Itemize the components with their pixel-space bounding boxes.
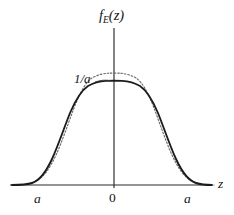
x-tick-label-positive-a: a bbox=[184, 192, 191, 206]
peak-value-label: 1/a bbox=[74, 72, 91, 85]
probability-density-figure: fE(z) 1/a a 0 a z bbox=[0, 0, 234, 215]
x-tick-label-origin: 0 bbox=[109, 191, 116, 205]
plot-canvas bbox=[0, 0, 234, 215]
x-axis-label: z bbox=[218, 177, 223, 191]
x-tick-label-negative-a: a bbox=[34, 192, 41, 206]
solid-density-curve bbox=[12, 81, 212, 185]
y-axis-label-argument: (z) bbox=[109, 7, 124, 23]
y-axis-label: fE(z) bbox=[99, 8, 124, 25]
